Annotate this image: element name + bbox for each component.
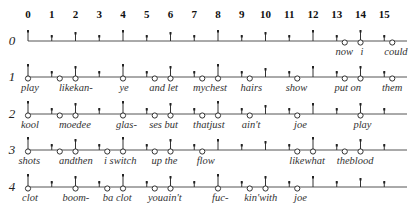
column-number-header: 0123456789101112131415 (25, 8, 390, 20)
lyric-syllable: flow (197, 155, 215, 166)
tick-head-icon (336, 71, 338, 74)
lyric-syllable: and let (149, 82, 179, 93)
tick-head-icon (217, 174, 219, 177)
note-circle-icon (152, 186, 157, 191)
row-number: 3 (8, 142, 16, 157)
tick-head-icon (98, 181, 100, 184)
tick-head-icon (98, 144, 100, 147)
note-circle-icon (247, 186, 252, 191)
tick-head-icon (312, 137, 314, 140)
column-number: 6 (168, 8, 174, 20)
tick-head-icon (383, 108, 385, 111)
tick-head-icon (122, 64, 124, 67)
tick-head-icon (193, 108, 195, 111)
tick-head-icon (360, 103, 362, 106)
tick-head-icon (383, 71, 385, 74)
tick-head-icon (241, 71, 243, 74)
column-number: 7 (192, 8, 198, 20)
note-circle-icon (25, 113, 30, 118)
column-number: 9 (239, 8, 245, 20)
column-number: 12 (308, 8, 320, 20)
tick-head-icon (27, 30, 29, 33)
note-circle-icon (390, 40, 395, 45)
note-circle-icon (310, 149, 315, 154)
tick-head-icon (170, 176, 172, 179)
rhythm-row: 4clotboom-ba clotyouain'tfuc-kin'withjoe (9, 174, 407, 203)
lyric-syllable: glas- (116, 119, 138, 130)
lyric-syllable: play (352, 119, 371, 130)
tick-head-icon (122, 101, 124, 104)
lyric-syllable: put on (333, 82, 361, 93)
note-circle-icon (105, 149, 110, 154)
lyric-syllable: moedee (59, 119, 91, 130)
note-circle-icon (168, 76, 173, 81)
tick-head-icon (170, 66, 172, 69)
note-circle-icon (73, 149, 78, 154)
tick-head-icon (265, 32, 267, 35)
lyric-syllable: kin'with (244, 192, 277, 203)
note-circle-icon (120, 149, 125, 154)
tick-head-icon (265, 141, 267, 144)
column-number: 1 (49, 8, 55, 20)
lyric-syllable: shots (19, 155, 41, 166)
column-number: 15 (379, 8, 391, 20)
lyric-syllable: mychest (193, 82, 228, 93)
lyric-syllable: andthen (59, 155, 93, 166)
tick-head-icon (193, 181, 195, 184)
column-number: 5 (144, 8, 150, 20)
tick-head-icon (360, 66, 362, 69)
tick-head-icon (265, 105, 267, 108)
rhythm-rows: 0nowicould1playlikekan-yeand letmychesth… (8, 30, 409, 203)
note-circle-icon (168, 186, 173, 191)
lyric-syllable: show (286, 82, 308, 93)
tick-head-icon (51, 181, 53, 184)
lyric-syllable: ain't (242, 119, 262, 130)
tick-head-icon (241, 181, 243, 184)
note-circle-icon (120, 76, 125, 81)
note-circle-icon (295, 113, 300, 118)
lyric-syllable: could (384, 46, 408, 57)
row-number: 1 (9, 69, 16, 84)
note-circle-icon (215, 76, 220, 81)
note-circle-icon (200, 149, 205, 154)
tick-head-icon (98, 108, 100, 111)
tick-head-icon (383, 35, 385, 38)
lyric-syllable: clot (22, 192, 39, 203)
note-circle-icon (25, 149, 30, 154)
tick-head-icon (170, 139, 172, 142)
tick-head-icon (336, 181, 338, 184)
lyric-syllable: play (20, 82, 39, 93)
lyric-syllable: boom- (62, 192, 89, 203)
tick-head-icon (288, 144, 290, 147)
tick-head-icon (383, 144, 385, 147)
note-circle-icon (105, 186, 110, 191)
lyric-syllable: now (336, 46, 354, 57)
note-circle-icon (168, 149, 173, 154)
tick-head-icon (193, 35, 195, 38)
tick-head-icon (217, 64, 219, 67)
tick-head-icon (336, 144, 338, 147)
tick-head-icon (75, 32, 77, 35)
lyric-syllable: kool (21, 119, 39, 130)
column-number: 2 (73, 8, 79, 20)
row-number: 4 (9, 179, 16, 194)
column-number: 0 (25, 8, 31, 20)
note-circle-icon (342, 40, 347, 45)
tick-head-icon (146, 144, 148, 147)
lyric-syllable: joe (292, 192, 307, 203)
lyric-syllable: ses but (149, 119, 179, 130)
note-circle-icon (73, 186, 78, 191)
lyric-syllable: ye (118, 82, 129, 93)
note-circle-icon (152, 76, 157, 81)
lyric-syllable: ba clot (103, 192, 133, 203)
tick-head-icon (265, 68, 267, 71)
note-circle-icon (200, 76, 205, 81)
lyric-syllable: hairs (241, 82, 263, 93)
tick-head-icon (217, 139, 219, 142)
tick-head-icon (27, 174, 29, 177)
tick-head-icon (51, 144, 53, 147)
lyric-syllable: likewhat (289, 155, 326, 166)
rhythm-row: 2koolmoedeeglas-ses butthatjustain'tjoep… (9, 101, 407, 130)
tick-head-icon (360, 139, 362, 142)
note-circle-icon (390, 76, 395, 81)
